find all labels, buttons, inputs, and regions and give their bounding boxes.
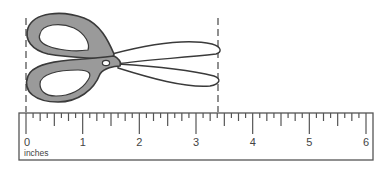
unit-label: inches <box>24 148 49 158</box>
ruler-label-4: 4 <box>250 136 256 148</box>
ruler-label-3: 3 <box>193 136 199 148</box>
pivot-screw <box>102 60 109 65</box>
scissors-ruler-diagram: 0123456 inches <box>0 0 390 171</box>
ruler-label-0: 0 <box>24 136 30 148</box>
scissors-icon <box>27 13 220 102</box>
ruler-label-5: 5 <box>306 136 312 148</box>
ruler-label-1: 1 <box>80 136 86 148</box>
ruler-label-2: 2 <box>136 136 142 148</box>
ruler-label-6: 6 <box>363 136 369 148</box>
